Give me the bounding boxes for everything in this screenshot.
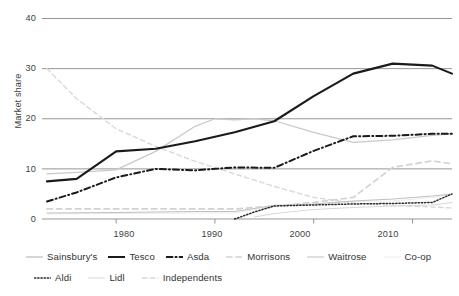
y-tick-40: 40	[14, 13, 36, 23]
line-key-coop	[384, 252, 401, 262]
series-line-independents	[47, 69, 452, 208]
legend-row-primary: Sainsbury'sTescoAsdaMorrisonsWaitroseCo-…	[0, 246, 459, 267]
line-key-asda	[166, 252, 183, 262]
legend-item-aldi[interactable]: Aldi	[34, 272, 71, 283]
line-key-waitrose	[307, 252, 324, 262]
line-key-sainsburys	[26, 252, 43, 262]
chart-legend: Sainsbury'sTescoAsdaMorrisonsWaitroseCo-…	[0, 246, 459, 288]
legend-label: Independents	[163, 272, 222, 283]
legend-label: Sainsbury's	[47, 251, 97, 262]
legend-item-sainsbury-s[interactable]: Sainsbury's	[26, 251, 97, 262]
series-layer	[47, 64, 452, 219]
market-share-line-chart	[0, 0, 459, 244]
plot-area: Market share 40 30 20 10 0 1980 1990 200…	[0, 0, 459, 244]
line-key-aldi	[34, 273, 51, 283]
legend-label: Waitrose	[328, 251, 366, 262]
y-tick-20: 20	[14, 113, 36, 123]
legend-item-lidl[interactable]: Lidl	[88, 272, 124, 283]
y-tick-30: 30	[14, 63, 36, 73]
legend-label: Tesco	[129, 251, 155, 262]
series-line-co-op	[47, 194, 452, 214]
legend-item-morrisons[interactable]: Morrisons	[226, 251, 290, 262]
legend-item-co-op[interactable]: Co-op	[384, 251, 432, 262]
line-key-tesco	[108, 252, 125, 262]
x-tick-1990: 1990	[192, 229, 232, 239]
y-axis-label: Market share	[13, 61, 23, 141]
legend-row-secondary: AldiLidlIndependents	[0, 267, 459, 288]
x-tick-2000: 2000	[280, 229, 320, 239]
line-key-lidl	[88, 273, 105, 283]
legend-label: Co-op	[405, 251, 432, 262]
legend-label: Asda	[187, 251, 209, 262]
line-key-morrisons	[226, 252, 243, 262]
legend-label: Lidl	[109, 272, 124, 283]
y-tick-10: 10	[14, 164, 36, 174]
series-line-sainsbury-s	[47, 119, 452, 174]
x-tick-1980: 1980	[104, 229, 144, 239]
legend-item-waitrose[interactable]: Waitrose	[307, 251, 366, 262]
legend-item-independents[interactable]: Independents	[142, 272, 222, 283]
x-tick-2010: 2010	[368, 229, 408, 239]
line-key-independents	[142, 273, 159, 283]
y-tick-0: 0	[14, 214, 36, 224]
chart-page: Market share 40 30 20 10 0 1980 1990 200…	[0, 0, 459, 296]
legend-label: Aldi	[55, 272, 71, 283]
series-line-morrisons	[47, 161, 452, 209]
legend-label: Morrisons	[247, 251, 290, 262]
gridlines	[42, 19, 452, 224]
legend-item-asda[interactable]: Asda	[166, 251, 209, 262]
legend-item-tesco[interactable]: Tesco	[108, 251, 155, 262]
